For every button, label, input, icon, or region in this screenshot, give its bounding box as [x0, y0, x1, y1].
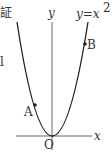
- cropped-text-fragment: 証: [0, 6, 12, 20]
- curve-equation-exponent: 2: [103, 1, 111, 15]
- origin-label: O: [44, 138, 54, 152]
- y-axis-label: y: [47, 6, 55, 20]
- parabola-diagram: 証 l A B O x y y=x 2: [0, 0, 112, 164]
- point-a-label: A: [23, 105, 33, 119]
- point-b-label: B: [87, 38, 96, 52]
- point-a: [33, 103, 37, 107]
- curve-equation: y=x: [75, 7, 100, 21]
- x-axis-label: x: [94, 129, 101, 143]
- cropped-text-fragment: l: [0, 55, 4, 69]
